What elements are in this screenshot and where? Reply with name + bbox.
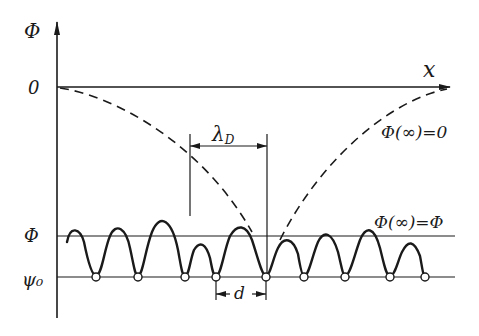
y-axis-label: Φ	[24, 19, 40, 43]
oscillating-potential-curve	[67, 221, 425, 276]
d-label: d	[234, 283, 245, 303]
minimum-marker	[134, 273, 142, 281]
minimum-marker	[212, 273, 220, 281]
minimum-marker	[386, 273, 394, 281]
potential-diagram: Φ x 0 λD Φ(∞)=0 Φ ψ₀ Φ(∞)=Φ d	[0, 0, 479, 336]
dashed-curve-left	[60, 88, 252, 232]
minimum-marker	[92, 273, 100, 281]
phi-inf-phi-label: Φ(∞)=Φ	[374, 212, 444, 232]
minimum-marker	[341, 273, 349, 281]
psi0-level-label: ψ₀	[22, 269, 43, 290]
minimum-marker	[300, 273, 308, 281]
phi-inf-zero-label: Φ(∞)=0	[381, 122, 448, 142]
minimum-marker	[421, 273, 429, 281]
lambda-label: λD	[211, 122, 235, 147]
phi-level-label: Φ	[24, 225, 39, 246]
x-axis-label: x	[423, 57, 436, 82]
origin-label: 0	[28, 77, 39, 98]
minimum-marker	[262, 273, 270, 281]
minimum-marker	[181, 273, 189, 281]
